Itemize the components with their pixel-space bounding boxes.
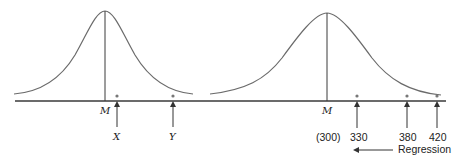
left-normal-curve bbox=[14, 11, 193, 94]
marker-y-dot bbox=[171, 94, 174, 97]
right-mean-value: (300) bbox=[316, 131, 341, 143]
regression-to-mean-diagram: M X Y M (300) 330 380 420 Regression bbox=[0, 0, 458, 161]
right-normal-curve bbox=[210, 13, 441, 95]
marker-330-dot bbox=[355, 94, 358, 97]
marker-x-dot bbox=[115, 94, 118, 97]
right-panel: M (300) 330 380 420 Regression bbox=[210, 13, 451, 155]
right-mean-label: M bbox=[321, 105, 333, 116]
marker-420-dot bbox=[435, 94, 438, 97]
marker-380-label: 380 bbox=[399, 131, 417, 143]
marker-420-label: 420 bbox=[429, 131, 447, 143]
regression-label: Regression bbox=[398, 143, 451, 155]
left-panel: M X Y bbox=[14, 11, 193, 142]
marker-330-label: 330 bbox=[350, 131, 368, 143]
marker-380-dot bbox=[405, 94, 408, 97]
marker-y-label: Y bbox=[169, 131, 177, 142]
left-mean-label: M bbox=[99, 105, 111, 116]
marker-x-label: X bbox=[112, 131, 121, 142]
